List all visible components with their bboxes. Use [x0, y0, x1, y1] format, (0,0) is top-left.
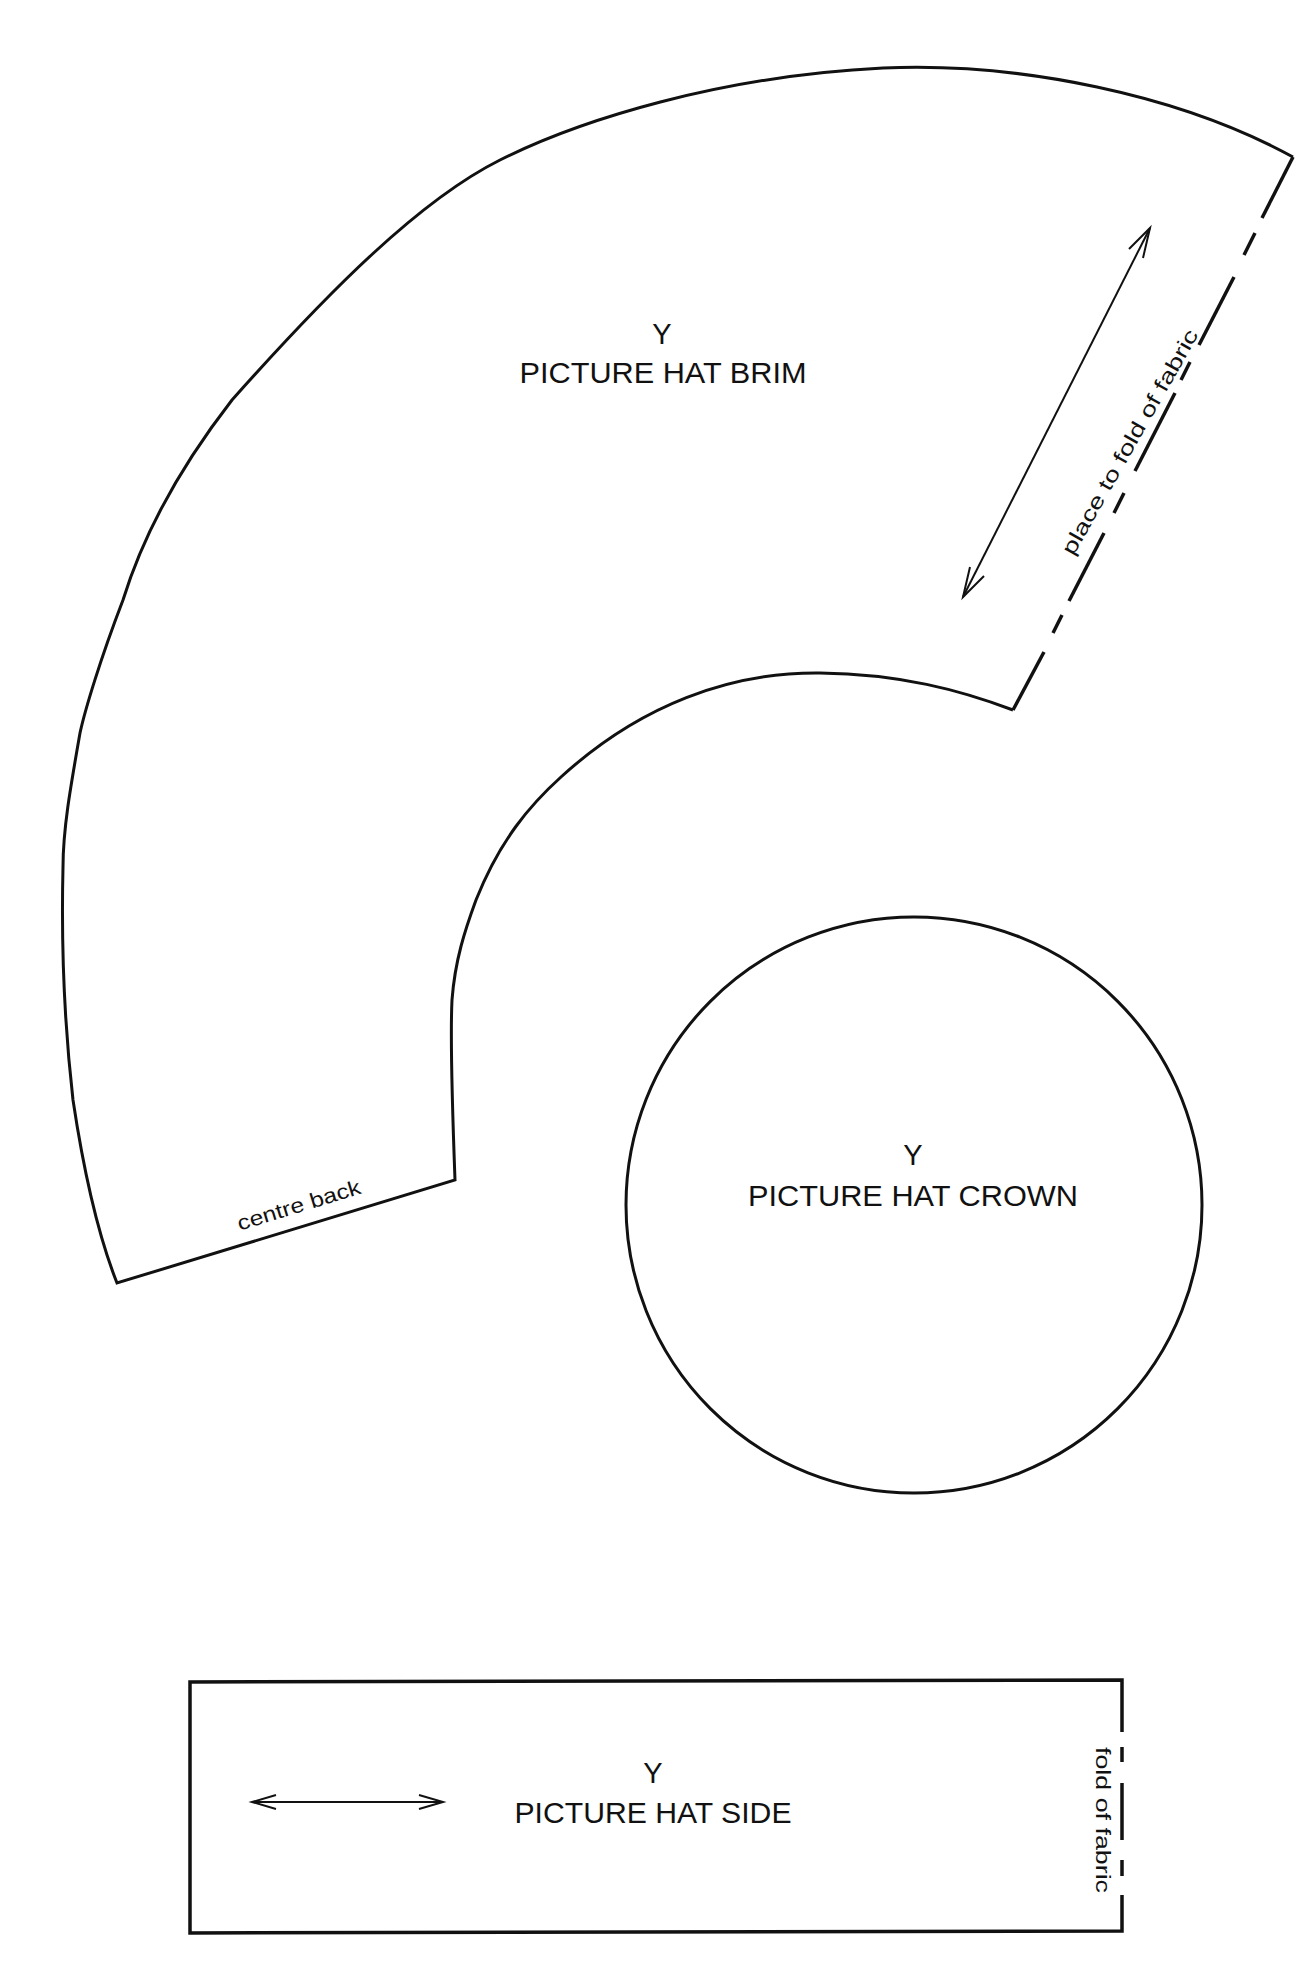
side-grain-arrow-icon — [252, 1795, 443, 1809]
side-piece: Y PICTURE HAT SIDE fold of fabric — [190, 1680, 1122, 1933]
brim-outline — [62, 67, 1293, 1283]
crown-piece: Y PICTURE HAT CROWN — [626, 917, 1202, 1493]
crown-letter: Y — [903, 1139, 922, 1171]
side-letter: Y — [643, 1757, 662, 1789]
side-title: PICTURE HAT SIDE — [515, 1797, 792, 1829]
brim-fold-note: place to fold of fabric — [1057, 325, 1203, 558]
crown-title: PICTURE HAT CROWN — [748, 1180, 1078, 1212]
brim-letter: Y — [652, 318, 671, 350]
brim-centre-back-note: centre back — [234, 1175, 364, 1235]
side-fold-note: fold of fabric — [1092, 1747, 1115, 1893]
brim-fold-line — [1013, 157, 1293, 710]
sewing-pattern-sheet: Y PICTURE HAT BRIM place to fold of fabr… — [0, 0, 1303, 1988]
brim-grain-arrow-icon — [963, 228, 1150, 597]
brim-piece: Y PICTURE HAT BRIM place to fold of fabr… — [62, 67, 1293, 1283]
brim-title: PICTURE HAT BRIM — [520, 357, 807, 389]
